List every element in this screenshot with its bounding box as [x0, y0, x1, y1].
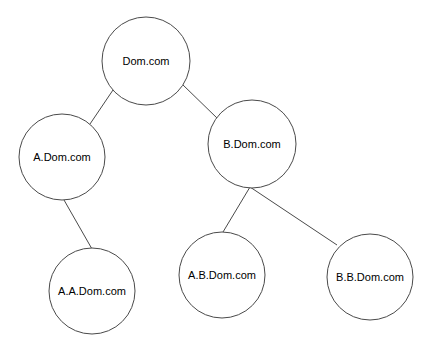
- node-circle-a-b-dom-com[interactable]: [179, 232, 265, 318]
- node-circle-b-b-dom-com[interactable]: [327, 234, 413, 320]
- node-circle-dom-com[interactable]: [102, 17, 190, 105]
- domain-tree-diagram: Dom.com A.Dom.com B.Dom.com A.A.Dom.com …: [0, 0, 430, 347]
- node-a-dom-com[interactable]: A.Dom.com: [19, 114, 105, 200]
- node-a-b-dom-com[interactable]: A.B.Dom.com: [179, 232, 265, 318]
- edge-b-dom-com-to-b-b-dom-com: [250, 187, 337, 245]
- diagram-canvas: Dom.com A.Dom.com B.Dom.com A.A.Dom.com …: [0, 0, 430, 347]
- node-circle-a-a-dom-com[interactable]: [49, 248, 135, 334]
- edge-b-dom-com-to-a-b-dom-com: [223, 187, 250, 232]
- node-b-b-dom-com[interactable]: B.B.Dom.com: [327, 234, 413, 320]
- edge-a-dom-com-to-a-a-dom-com: [64, 200, 92, 249]
- node-circle-b-dom-com[interactable]: [208, 100, 296, 188]
- node-a-a-dom-com[interactable]: A.A.Dom.com: [49, 248, 135, 334]
- node-b-dom-com[interactable]: B.Dom.com: [208, 100, 296, 188]
- node-dom-com[interactable]: Dom.com: [102, 17, 190, 105]
- edge-layer: [64, 84, 337, 249]
- edge-root-to-a-dom-com: [90, 90, 113, 124]
- node-layer: Dom.com A.Dom.com B.Dom.com A.A.Dom.com …: [19, 17, 413, 334]
- edge-root-to-b-dom-com: [182, 84, 218, 119]
- node-circle-a-dom-com[interactable]: [19, 114, 105, 200]
